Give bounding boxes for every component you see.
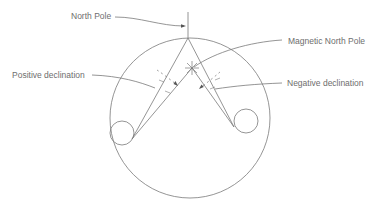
left-to-true-north <box>132 38 188 139</box>
magnetic-north-pole-label: Magnetic North Pole <box>288 37 365 46</box>
positive-declination-leader <box>92 75 155 88</box>
north-pole-arrowhead-icon <box>181 24 186 28</box>
north-pole-leader <box>115 17 184 26</box>
positive-declination-arrowhead-icon <box>174 81 179 86</box>
magnetic-north-star-icon <box>185 61 199 75</box>
earth-circle <box>110 38 270 198</box>
diagram-canvas <box>0 0 375 206</box>
negative-declination-leader <box>215 83 282 89</box>
magnetic-north-leader <box>194 40 282 67</box>
positive-declination-label: Positive declination <box>12 71 85 80</box>
negative-declination-label: Negative declination <box>287 79 364 88</box>
left-to-magnetic-north <box>132 68 192 139</box>
declination-diagram: North Pole Magnetic North Pole Positive … <box>0 0 375 206</box>
right-observer-circle <box>234 109 258 133</box>
left-observer-circle <box>110 121 134 145</box>
north-pole-label: North Pole <box>71 12 111 21</box>
positive-declination-arc <box>157 70 177 85</box>
right-to-true-north <box>188 38 234 127</box>
right-to-magnetic-north <box>192 68 234 127</box>
